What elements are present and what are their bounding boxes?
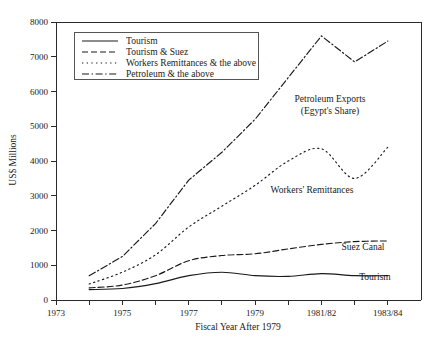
chart-figure: 010002000300040005000600070008000 197319… (0, 0, 441, 341)
y-tick-label: 3000 (30, 191, 49, 201)
x-tick-label: 1977 (180, 308, 199, 318)
y-tick-label: 7000 (30, 52, 49, 62)
x-tick-label: 1973 (47, 308, 66, 318)
legend-item-label-1[interactable]: Tourism (126, 36, 158, 46)
y-tick-label: 5000 (30, 121, 49, 131)
annotation-label: Suez Canal (341, 242, 384, 252)
legend-item-label-2[interactable]: Tourism & Suez (126, 47, 188, 57)
x-axis-ticks: 19731975197719791981/821983/84 (47, 300, 403, 318)
line-chart-canvas: 010002000300040005000600070008000 197319… (0, 0, 441, 341)
y-tick-label: 4000 (30, 156, 49, 166)
x-axis-title: Fiscal Year After 1979 (195, 322, 281, 332)
series-line-tourism (89, 272, 388, 289)
annotation-label: Petroleum Exports (295, 94, 366, 104)
annotation-label: (Egypt's Share) (301, 106, 359, 117)
chart-annotations: Petroleum Exports(Egypt's Share)Workers'… (271, 94, 392, 282)
y-tick-label: 0 (44, 295, 49, 305)
y-tick-label: 6000 (30, 87, 49, 97)
y-tick-label: 8000 (30, 17, 49, 27)
series-line-workers-remittances-the-above (89, 147, 388, 284)
x-tick-label: 1979 (246, 308, 265, 318)
y-axis-title: US$ Millions (8, 134, 18, 186)
legend-item-label-3[interactable]: Workers Remittances & the above (126, 58, 256, 68)
annotation-label: Tourism (359, 272, 391, 282)
chart-legend[interactable]: TourismTourism & SuezWorkers Remittances… (74, 32, 258, 79)
legend-item-label-4[interactable]: Petroleum & the above (126, 69, 214, 79)
y-tick-label: 1000 (30, 260, 49, 270)
x-tick-label: 1983/84 (373, 308, 403, 318)
x-tick-label: 1975 (113, 308, 132, 318)
y-tick-label: 2000 (30, 226, 49, 236)
y-axis-ticks: 010002000300040005000600070008000 (30, 17, 56, 305)
annotation-label: Workers' Remittances (271, 185, 354, 195)
x-tick-label: 1981/82 (307, 308, 337, 318)
